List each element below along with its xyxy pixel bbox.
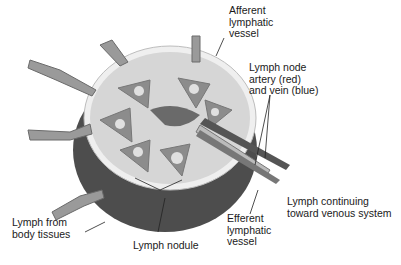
label-lymph-from-body-tissues: Lymph from body tissues (12, 217, 70, 240)
label-lymph-nodule: Lymph nodule (133, 240, 199, 252)
label-lymph-continuing: Lymph continuing toward venous system (287, 196, 391, 219)
label-efferent-lymphatic-vessel: Efferent lymphatic vessel (227, 213, 271, 248)
label-artery-vein: Lymph node artery (red) and vein (blue) (249, 62, 318, 97)
label-afferent-lymphatic-vessel: Afferent lymphatic vessel (229, 5, 273, 40)
